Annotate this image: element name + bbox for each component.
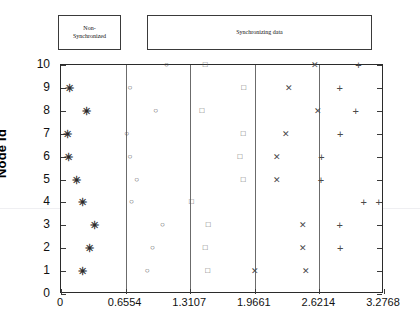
- y-tick-0: [377, 294, 382, 295]
- data-point-circle-node-8: ○: [153, 107, 158, 115]
- y-tick-right-5: [61, 180, 66, 181]
- data-point-plus-node-2: +: [337, 243, 343, 254]
- y-tick-7: [377, 134, 382, 135]
- data-point-plus-node-7: +: [337, 128, 343, 139]
- data-point-circle-node-2: ○: [150, 244, 155, 252]
- data-point-plus-node-3: +: [337, 220, 343, 231]
- x-tick-label-1.9661: 1.9661: [237, 296, 271, 308]
- chart-root: Non-Synchronized Synchronizing data Node…: [0, 0, 420, 333]
- y-tick-label-4: 4: [22, 194, 50, 208]
- data-point-x-node-8: ✕: [314, 106, 322, 115]
- data-point-plus-node-4: +: [360, 197, 366, 208]
- data-point-square-node-7: □: [241, 130, 246, 138]
- y-tick-label-2: 2: [22, 240, 50, 254]
- data-point-x-node-1: ✕: [302, 267, 310, 276]
- phase-label-non-synchronized-text: Non-Synchronized: [73, 25, 106, 40]
- data-point-x-node-1: ✕: [251, 267, 259, 276]
- y-tick-right-4: [61, 202, 66, 203]
- data-point-circle-node-9: ○: [127, 84, 132, 92]
- data-point-circle-node-6: ○: [127, 153, 132, 161]
- data-point-x-node-10: ✕: [311, 61, 319, 70]
- data-point-square-node-3: □: [206, 221, 211, 229]
- y-tick-10: [377, 65, 382, 66]
- y-tick-label-1: 1: [22, 263, 50, 277]
- data-point-asterisk-node-2: ✳: [85, 243, 94, 254]
- y-tick-right-1: [61, 271, 66, 272]
- y-tick-9: [377, 88, 382, 89]
- y-tick-right-8: [61, 111, 66, 112]
- x-tick-2.6214: [319, 289, 320, 294]
- y-tick-8: [377, 111, 382, 112]
- plot-area: ✳✳✳✳✳✳✳✳✳○○○○○○○○○○□□□□□□□□□□✕✕✕✕✕✕✕✕✕✕+…: [60, 64, 383, 293]
- data-point-plus-node-6: +: [318, 151, 324, 162]
- y-tick-3: [377, 225, 382, 226]
- data-point-plus-node-4: +: [375, 197, 381, 208]
- x-tick-3.2768: [384, 289, 385, 294]
- data-point-x-node-7: ✕: [282, 129, 290, 138]
- y-tick-label-9: 9: [22, 80, 50, 94]
- y-tick-6: [377, 157, 382, 158]
- y-tick-label-3: 3: [22, 217, 50, 231]
- data-point-square-node-5: □: [241, 176, 246, 184]
- data-point-x-node-9: ✕: [285, 83, 293, 92]
- y-tick-label-0: 0: [22, 286, 50, 300]
- x-tick-label-0.6554: 0.6554: [108, 296, 142, 308]
- y-tick-1: [377, 271, 382, 272]
- data-point-square-node-9: □: [241, 84, 246, 92]
- data-point-asterisk-node-5: ✳: [72, 174, 81, 185]
- x-tick-label-3.2768: 3.2768: [366, 296, 400, 308]
- data-point-circle-node-7: ○: [124, 130, 129, 138]
- x-tick-label-2.6214: 2.6214: [302, 296, 336, 308]
- data-point-x-node-6: ✕: [273, 152, 281, 161]
- data-point-asterisk-node-4: ✳: [78, 197, 87, 208]
- y-tick-right-10: [61, 65, 66, 66]
- y-tick-right-2: [61, 248, 66, 249]
- x-tick-1.9661: [255, 289, 256, 294]
- data-point-plus-node-10: +: [355, 60, 361, 71]
- data-point-square-node-10: □: [203, 61, 208, 69]
- y-tick-label-7: 7: [22, 126, 50, 140]
- data-point-square-node-2: □: [203, 244, 208, 252]
- y-tick-label-6: 6: [22, 149, 50, 163]
- data-point-square-node-6: □: [237, 153, 242, 161]
- data-point-asterisk-node-1: ✳: [78, 266, 87, 277]
- x-tick-label-1.3107: 1.3107: [172, 296, 206, 308]
- y-tick-5: [377, 180, 382, 181]
- data-point-circle-node-10: ○: [164, 61, 169, 69]
- data-point-asterisk-node-3: ✳: [90, 220, 99, 231]
- x-tick-1.3107: [190, 289, 191, 294]
- data-point-circle-node-3: ○: [160, 221, 165, 229]
- y-tick-right-3: [61, 225, 66, 226]
- phase-label-synchronizing-data: Synchronizing data: [147, 15, 372, 50]
- phase-divider-0: [126, 65, 127, 292]
- phase-label-synchronizing-data-text: Synchronizing data: [236, 29, 283, 37]
- data-point-circle-node-5: ○: [134, 176, 139, 184]
- x-tick-label-0: 0: [57, 296, 63, 308]
- data-point-x-node-5: ✕: [273, 175, 281, 184]
- x-tick-0.6554: [126, 289, 127, 294]
- y-tick-right-0: [61, 294, 66, 295]
- data-point-circle-node-4: ○: [129, 198, 134, 206]
- y-tick-label-5: 5: [22, 172, 50, 186]
- data-point-asterisk-node-6: ✳: [64, 151, 73, 162]
- y-tick-label-8: 8: [22, 103, 50, 117]
- data-point-plus-node-8: +: [352, 105, 358, 116]
- phase-label-non-synchronized: Non-Synchronized: [58, 15, 121, 50]
- x-tick-0: [61, 289, 62, 294]
- phase-divider-1: [190, 65, 191, 292]
- data-point-x-node-3: ✕: [299, 221, 307, 230]
- data-point-asterisk-node-9: ✳: [65, 82, 74, 93]
- data-point-x-node-2: ✕: [299, 244, 307, 253]
- data-point-square-node-8: □: [199, 107, 204, 115]
- y-tick-2: [377, 248, 382, 249]
- data-point-square-node-4: □: [189, 198, 194, 206]
- data-point-plus-node-9: +: [337, 82, 343, 93]
- data-point-asterisk-node-8: ✳: [82, 105, 91, 116]
- data-point-asterisk-node-7: ✳: [63, 128, 72, 139]
- phase-divider-2: [255, 65, 256, 292]
- data-point-plus-node-5: +: [318, 174, 324, 185]
- data-point-square-node-1: □: [205, 267, 210, 275]
- y-axis-title: Node Id: [0, 129, 9, 178]
- y-tick-label-10: 10: [22, 57, 50, 71]
- data-point-circle-node-1: ○: [145, 267, 150, 275]
